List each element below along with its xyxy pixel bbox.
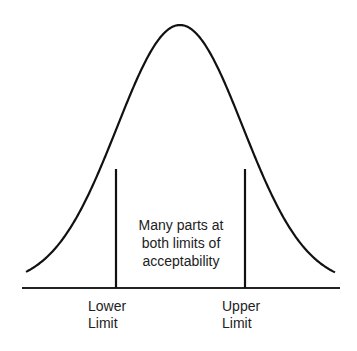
- annotation-line-1: Many parts at: [118, 216, 244, 234]
- lower-limit-label: Lower Limit: [88, 298, 126, 332]
- bell-curve-graphic: [0, 0, 357, 351]
- upper-limit-label-line-1: Upper: [222, 298, 260, 315]
- lower-limit-label-line-2: Limit: [88, 315, 126, 332]
- annotation-text: Many parts at both limits of acceptabili…: [118, 216, 244, 270]
- bell-curve-diagram: Many parts at both limits of acceptabili…: [0, 0, 357, 351]
- annotation-line-2: both limits of: [118, 234, 244, 252]
- upper-limit-label: Upper Limit: [222, 298, 260, 332]
- upper-limit-label-line-2: Limit: [222, 315, 260, 332]
- lower-limit-label-line-1: Lower: [88, 298, 126, 315]
- annotation-line-3: acceptability: [118, 252, 244, 270]
